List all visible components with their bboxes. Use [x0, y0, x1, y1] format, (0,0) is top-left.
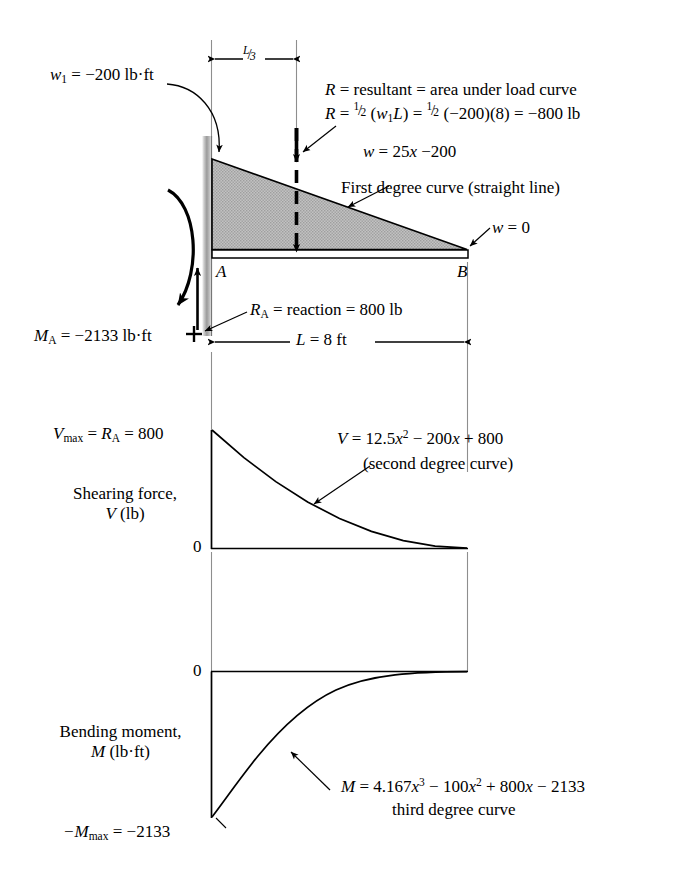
moment-equation-label: M = 4.167x3 − 100x2 + 800x − 2133: [341, 776, 585, 797]
resultant-definition-label: R = resultant = area under load curve: [325, 80, 577, 100]
moment-equation-leader-line: [291, 752, 330, 790]
w1-subscript: 1: [61, 73, 67, 85]
moment-min-label: −Mmax = −2133: [63, 822, 170, 844]
resultant-leader-line: [303, 126, 336, 152]
resultant-computation-label: R = 1/2(w1L) = 1/2(−200)(8) = −800 lb: [325, 103, 580, 126]
beam-length-label: L = 8 ft: [296, 330, 347, 350]
moment-equation-note: third degree curve: [392, 800, 516, 820]
beam-member: [212, 250, 468, 258]
moment-a-symbol: M: [34, 326, 48, 345]
dimension-l-over-3-label: L / 3: [243, 47, 261, 68]
w1-load-label: w1 = −200 lb·ft: [50, 65, 154, 87]
point-a-label: A: [216, 262, 226, 282]
shear-max-subscript2: A: [112, 432, 120, 444]
shear-axis-title: Shearing force, V (lb): [50, 484, 200, 524]
shear-max-label: Vmax = RA = 800: [53, 424, 164, 446]
shear-max-symbol: V: [53, 424, 63, 443]
w1-symbol: w: [50, 65, 61, 84]
shear-zero-label: 0: [193, 537, 202, 557]
shear-max-subscript: max: [63, 432, 83, 444]
moment-a-subscript: A: [48, 334, 56, 346]
moment-axis-title: Bending moment, M (lb·ft): [38, 722, 203, 762]
first-degree-note-label: First degree curve (straight line): [341, 178, 560, 198]
w-zero-leader-line: [470, 228, 490, 246]
shear-axis-title-line1: Shearing force,: [50, 484, 200, 504]
w-zero-label: w = 0: [492, 218, 530, 238]
moment-min-subscript: max: [89, 830, 109, 842]
w1-value: = −200 lb·ft: [71, 65, 153, 84]
reaction-symbol: R: [250, 300, 260, 319]
shear-max-value: = 800: [124, 424, 163, 443]
beam-shear-moment-figure: L / 3 w1 = −200 lb·ft R = resultant = ar…: [0, 0, 688, 871]
shear-equation-note: (second degree curve): [363, 454, 513, 474]
moment-a-label: MA = −2133 lb·ft: [34, 326, 152, 348]
moment-min-value: = −2133: [113, 822, 170, 841]
shear-equation-leader-line: [314, 466, 370, 504]
vertical-reference-lines: [212, 352, 468, 672]
moment-a-value: = −2133 lb·ft: [61, 326, 152, 345]
reaction-subscript: A: [260, 308, 268, 320]
moment-axis-title-line2: M (lb·ft): [38, 742, 203, 762]
moment-min-symbol: −M: [63, 822, 89, 841]
moment-zero-label: 0: [193, 661, 202, 681]
distributed-load-triangle: [212, 159, 467, 250]
reaction-value: = reaction = 800 lb: [273, 300, 403, 319]
moment-axis-title-line1: Bending moment,: [38, 722, 203, 742]
l-over-3-denominator: 3: [250, 50, 256, 64]
load-equation-label: w = 25x −200: [363, 142, 456, 162]
point-b-label: B: [457, 262, 467, 282]
shear-max-mid: = R: [87, 424, 111, 443]
reaction-label: RA = reaction = 800 lb: [250, 300, 403, 322]
shear-equation-label: V = 12.5x2 − 200x + 800: [337, 428, 503, 449]
shear-axis-title-line2: V (lb): [50, 504, 200, 524]
moment-min-leader-line: [216, 818, 226, 828]
fixed-wall-support: [202, 136, 212, 336]
